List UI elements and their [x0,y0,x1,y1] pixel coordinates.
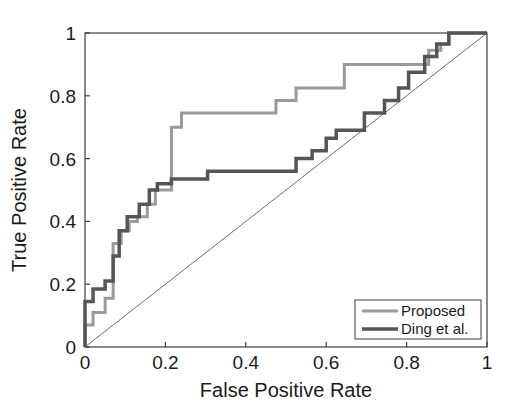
x-tick-label: 1 [482,352,493,373]
y-tick-label: 1 [65,23,76,44]
x-tick-label: 0.8 [393,352,419,373]
x-tick-label: 0.2 [152,352,178,373]
roc-plot-svg: 00.20.40.60.81 00.20.40.60.81 False Posi… [0,0,514,415]
legend: Proposed Ding et al. [355,300,481,339]
legend-label-ding: Ding et al. [401,320,469,337]
x-tick-label: 0.4 [233,352,260,373]
x-axis-title: False Positive Rate [200,379,372,401]
x-axis-tick-labels: 00.20.40.60.81 [80,352,493,373]
y-axis-title: True Positive Rate [8,108,30,272]
y-tick-label: 0.2 [50,274,76,295]
y-tick-label: 0.8 [50,86,76,107]
y-tick-label: 0.4 [50,211,77,232]
y-tick-label: 0 [65,337,76,358]
x-tick-label: 0 [80,352,91,373]
roc-chart-figure: 00.20.40.60.81 00.20.40.60.81 False Posi… [0,0,514,415]
y-axis-tick-labels: 00.20.40.60.81 [50,23,77,358]
x-tick-label: 0.6 [313,352,339,373]
legend-label-proposed: Proposed [401,302,465,319]
y-tick-label: 0.6 [50,149,76,170]
